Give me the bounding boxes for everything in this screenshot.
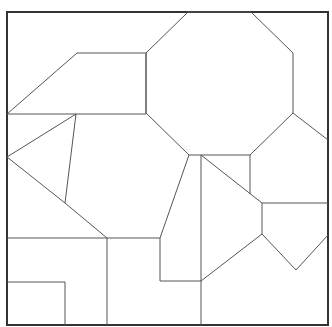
edge-left-diagonal [65, 203, 107, 238]
pentagon-right-piece [262, 203, 328, 270]
bottom-left-square-piece [7, 282, 65, 325]
edge-right-diagonal [201, 155, 262, 203]
edge-octagon-slant-down [160, 155, 189, 238]
edge-octagon-to-right-wall [293, 113, 328, 140]
left-triangle-piece [7, 114, 76, 203]
top-left-trapezoid-piece [7, 53, 146, 114]
outer-frame [7, 12, 328, 325]
octagon-piece [146, 12, 293, 155]
edge-pentagon-to-vertical [201, 234, 262, 281]
dissection-diagram [0, 0, 332, 327]
